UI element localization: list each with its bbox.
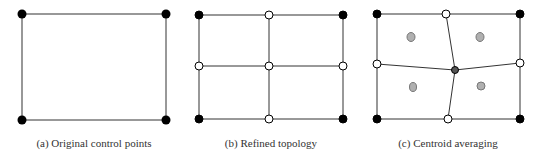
corner-point [373,10,381,18]
corner-point [162,116,171,125]
caption-a: (a) Original control points [4,137,184,149]
new-edge-point [265,115,273,123]
corner-point [339,11,347,19]
control-rectangle [22,14,166,120]
edge-point [373,60,381,68]
corner-point [516,115,524,123]
corner-point [18,10,27,19]
corner-point [195,115,203,123]
new-center-point [265,62,273,70]
corner-point [195,11,203,19]
edge-point [444,115,452,123]
corner-point [339,115,347,123]
edge-to-center [455,63,520,70]
caption-b: (b) Refined topology [181,137,361,149]
panel-b-points [195,11,347,123]
panel-a-points [18,10,171,125]
face-centroid [476,33,484,42]
diagram-canvas [0,0,542,151]
corner-point [18,116,27,125]
corner-point [162,10,171,19]
edge-point [442,10,450,18]
edge-to-center [446,14,455,70]
edge-to-center [377,64,455,70]
face-centroid [477,82,485,90]
averaged-center-point [452,67,459,74]
face-centroid [407,33,415,42]
panel-a-original [22,14,166,120]
caption-c: (c) Centroid averaging [358,137,538,149]
edge-to-center [448,70,455,119]
new-edge-point [195,62,203,70]
panel-c-centroid [377,14,520,119]
corner-point [516,10,524,18]
face-centroid [410,83,417,92]
corner-point [373,115,381,123]
edge-point [516,59,524,67]
new-edge-point [339,62,347,70]
new-edge-point [265,11,273,19]
